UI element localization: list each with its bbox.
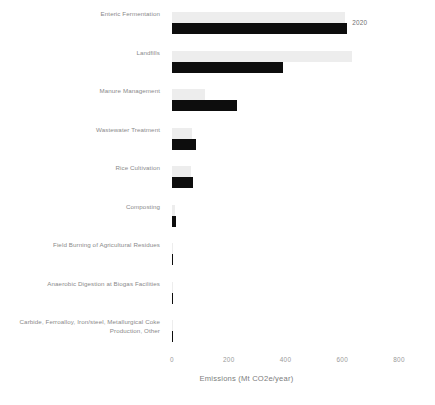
- bar-2020: [172, 216, 176, 227]
- x-tick-label: 800: [393, 356, 404, 363]
- y-category-label: Wastewater Treatment: [0, 126, 166, 135]
- x-tick-label: 400: [280, 356, 291, 363]
- bar-earlier: [172, 166, 191, 177]
- bar-2020: [172, 293, 173, 304]
- y-category-label: Landfills: [0, 49, 166, 58]
- x-axis-title: Emissions (Mt CO2e/year): [0, 374, 435, 383]
- bar-earlier: [172, 205, 175, 216]
- bar-2020: [172, 62, 283, 73]
- bar-2020: [172, 100, 237, 111]
- bar-2020: [172, 254, 173, 265]
- x-tick-label: 200: [223, 356, 234, 363]
- bar-earlier: [172, 282, 173, 293]
- x-axis-title-text: Emissions (Mt CO2e/year): [200, 374, 294, 383]
- y-category-label: Enteric Fermentation: [0, 10, 166, 19]
- plot-area: [172, 6, 399, 351]
- bar-earlier: [172, 12, 345, 23]
- x-tick-label: 600: [337, 356, 348, 363]
- bar-2020: [172, 23, 347, 34]
- emissions-bar-chart: 2020 0200400600800 Emissions (Mt CO2e/ye…: [0, 0, 435, 405]
- bar-2020: [172, 139, 196, 150]
- y-category-label: Field Burning of Agricultural Residues: [0, 241, 166, 250]
- y-category-label: Manure Management: [0, 87, 166, 96]
- bar-earlier: [172, 89, 205, 100]
- bar-earlier: [172, 243, 173, 254]
- y-category-label: Carbide, Ferroalloy, Iron/steel, Metallu…: [0, 318, 166, 335]
- bar-2020: [172, 177, 193, 188]
- y-category-label: Anaerobic Digestion at Biogas Facilities: [0, 280, 166, 289]
- bar-earlier: [172, 128, 192, 139]
- x-tick-label: 0: [170, 356, 174, 363]
- x-axis: 0200400600800: [172, 356, 399, 370]
- y-category-label: Composting: [0, 203, 166, 212]
- footer-cutoff-text: [0, 396, 435, 405]
- series-annotation-2020: 2020: [352, 19, 367, 26]
- y-category-label: Rice Cultivation: [0, 164, 166, 173]
- bar-earlier: [172, 51, 352, 62]
